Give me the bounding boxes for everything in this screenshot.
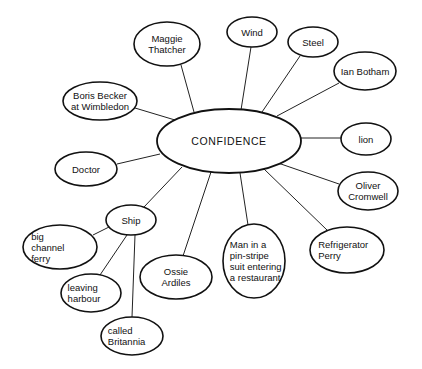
node-label: MaggieThatcher bbox=[148, 33, 186, 55]
connector-confidence-to-ossie-ardiles bbox=[183, 172, 211, 256]
node-label: Doctor bbox=[72, 164, 100, 175]
node-oliver-cromwell: OliverCromwell bbox=[338, 172, 398, 210]
node-label: lion bbox=[359, 134, 374, 145]
connector-confidence-to-steel bbox=[262, 56, 300, 112]
node-label-line: channel bbox=[31, 242, 64, 253]
node-label-line: Britannia bbox=[108, 336, 146, 347]
node-label-line: harbour bbox=[68, 293, 101, 304]
connector-confidence-to-doctor bbox=[117, 154, 160, 164]
node-label-line: suit entering bbox=[230, 261, 282, 272]
node-label-line: Ian Botham bbox=[341, 66, 390, 77]
mind-map-diagram: MaggieThatcherWindSteelIan BothamBoris B… bbox=[0, 0, 422, 369]
node-steel: Steel bbox=[288, 27, 338, 57]
node-label-line: Refrigerator bbox=[318, 239, 368, 250]
node-label-line: Boris Becker bbox=[73, 90, 127, 101]
connector-confidence-to-ship bbox=[144, 167, 182, 207]
node-ossie-ardiles: OssieArdiles bbox=[140, 255, 212, 299]
node-boris-becker: Boris Beckerat Wimbledon bbox=[63, 82, 137, 120]
node-label: Ian Botham bbox=[341, 66, 390, 77]
connector-ship-to-leaving-harbour bbox=[100, 235, 127, 275]
node-label-line: Ossie bbox=[164, 266, 188, 277]
mind-map-canvas: MaggieThatcherWindSteelIan BothamBoris B… bbox=[0, 0, 422, 369]
node-label-line: at Wimbledon bbox=[71, 101, 129, 112]
node-label-line: leaving bbox=[68, 282, 98, 293]
node-label: Boris Beckerat Wimbledon bbox=[71, 90, 129, 112]
node-man-pin-stripe: Man in apin-stripesuit enteringa restaur… bbox=[223, 224, 285, 298]
node-called-britannia: calledBritannia bbox=[101, 317, 163, 355]
connector-confidence-to-ian-botham bbox=[277, 83, 339, 116]
node-wind: Wind bbox=[227, 17, 277, 47]
node-label-line: Doctor bbox=[72, 164, 100, 175]
node-ship: Ship bbox=[106, 205, 156, 235]
connector-ship-to-big-channel-ferry bbox=[93, 227, 109, 235]
node-label-line: Thatcher bbox=[148, 44, 186, 55]
connector-lines bbox=[93, 47, 341, 317]
node-label-line: Ardiles bbox=[161, 277, 190, 288]
node-ian-botham: Ian Botham bbox=[334, 52, 396, 90]
node-label-line: lion bbox=[359, 134, 374, 145]
connector-confidence-to-refrigerator-perry bbox=[264, 169, 327, 230]
node-label-line: Perry bbox=[318, 250, 341, 261]
node-big-channel-ferry: bigchannelferry bbox=[23, 225, 97, 269]
connector-confidence-to-wind bbox=[241, 47, 251, 110]
node-label-line: Wind bbox=[241, 27, 263, 38]
node-label: Wind bbox=[241, 27, 263, 38]
node-label: leavingharbour bbox=[68, 282, 101, 304]
node-label-line: called bbox=[108, 325, 133, 336]
connector-confidence-to-oliver-cromwell bbox=[278, 163, 339, 184]
node-label-line: Man in a bbox=[230, 239, 267, 250]
node-refrigerator-perry: RefrigeratorPerry bbox=[310, 227, 384, 273]
node-label-line: Maggie bbox=[151, 33, 182, 44]
node-label: OssieArdiles bbox=[161, 266, 190, 288]
center-node-label: CONFIDENCE bbox=[191, 135, 266, 147]
node-label-line: Ship bbox=[121, 215, 140, 226]
connector-ship-to-called-britannia bbox=[132, 235, 135, 317]
node-lion: lion bbox=[341, 123, 391, 155]
node-label-line: Steel bbox=[302, 37, 324, 48]
node-label-line: ferry bbox=[31, 253, 50, 264]
idea-nodes: MaggieThatcherWindSteelIan BothamBoris B… bbox=[23, 17, 398, 355]
connector-confidence-to-maggie-thatcher bbox=[181, 65, 194, 112]
node-label-line: Cromwell bbox=[348, 191, 388, 202]
node-label-line: Oliver bbox=[356, 180, 381, 191]
connector-confidence-to-man-pin-stripe bbox=[240, 173, 248, 225]
node-label-line: a restaurant bbox=[230, 272, 281, 283]
connector-confidence-to-boris-becker bbox=[135, 108, 175, 120]
node-label: Ship bbox=[121, 215, 140, 226]
node-label-line: big bbox=[31, 231, 44, 242]
node-maggie-thatcher: MaggieThatcher bbox=[134, 22, 200, 66]
central-concept: CONFIDENCE bbox=[157, 109, 301, 173]
node-leaving-harbour: leavingharbour bbox=[61, 274, 121, 312]
node-label-line: pin-stripe bbox=[230, 250, 269, 261]
node-doctor: Doctor bbox=[55, 152, 117, 186]
node-label: Steel bbox=[302, 37, 324, 48]
